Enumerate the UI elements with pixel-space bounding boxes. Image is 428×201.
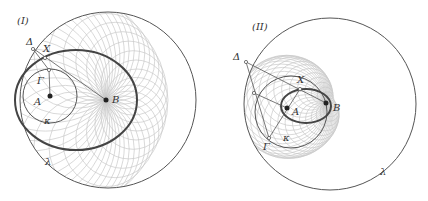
label-gamma-i: Γ	[36, 75, 45, 86]
point-a-i	[48, 94, 53, 99]
point-b-ii	[324, 101, 329, 106]
point-a-ii	[285, 106, 290, 111]
label-kappa-i: κ	[43, 115, 51, 126]
panel-i: (I) Δ X Γ A B κ λ	[0, 0, 196, 201]
label-a-ii: A	[291, 106, 299, 117]
panel-ii: (II) Δ X A B κ Γ λ	[232, 18, 416, 190]
label-delta-ii: Δ	[232, 51, 240, 62]
label-x-i: X	[42, 43, 51, 54]
panel-label-ii: (II)	[252, 21, 268, 32]
label-x-ii: X	[296, 74, 305, 85]
label-b-i: B	[111, 94, 119, 105]
label-lambda-i: λ	[44, 156, 51, 167]
label-b-ii: B	[332, 102, 340, 113]
label-kappa-ii: κ	[282, 132, 290, 143]
circle-family-i	[0, 0, 168, 201]
ellipse-construction-diagram: (I) Δ X Γ A B κ λ (II) Δ X A B κ Γ λ	[0, 0, 428, 201]
label-delta-i: Δ	[25, 36, 33, 47]
point-b-i	[104, 98, 109, 103]
panel-label-i: (I)	[17, 15, 29, 26]
label-a-i: A	[33, 96, 41, 107]
label-lambda-ii: λ	[379, 166, 386, 177]
label-gamma-ii: Γ	[262, 141, 271, 152]
